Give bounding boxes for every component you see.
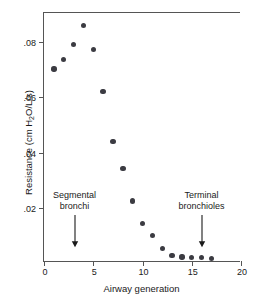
down-arrow-icon [197, 215, 207, 247]
data-point [169, 253, 174, 258]
data-point [110, 139, 115, 144]
data-point [51, 66, 56, 71]
down-arrow-icon [70, 215, 80, 247]
data-point [160, 246, 165, 251]
plot-area: .02.04.06.08 05101520 SegmentalbronchiTe… [43, 12, 240, 262]
x-tick-label-3: 15 [188, 267, 198, 277]
data-point [140, 221, 145, 226]
data-point [179, 254, 184, 259]
x-tick-3: 15 [192, 261, 193, 266]
annotation-line2: bronchioles [142, 201, 262, 212]
x-tick-0: 0 [44, 261, 45, 266]
data-point [91, 47, 96, 52]
data-point [209, 256, 214, 261]
annotation-line1: Segmental [53, 190, 96, 200]
y-tick-1: .04 [39, 153, 44, 154]
y-axis-title-subscript: 2 [28, 116, 35, 120]
data-point [189, 255, 194, 260]
y-tick-label-3: .08 [23, 38, 36, 48]
data-point [81, 23, 86, 28]
data-point [71, 42, 76, 47]
y-axis-title-pre: Resistance (cm H [23, 120, 34, 195]
annotation-terminal-bronchioles: Terminalbronchioles [142, 190, 262, 212]
annotation-line1: Terminal [185, 190, 219, 200]
x-tick-2: 10 [143, 261, 144, 266]
y-tick-3: .08 [39, 42, 44, 43]
data-point [61, 57, 66, 62]
y-axis-title: Resistance (cm H2O/L/s) [23, 63, 34, 223]
x-tick-label-0: 0 [42, 267, 47, 277]
x-tick-4: 20 [241, 261, 242, 266]
airway-resistance-scatter-figure: .02.04.06.08 05101520 SegmentalbronchiTe… [0, 0, 279, 303]
data-point [100, 89, 105, 94]
data-point [199, 255, 204, 260]
x-tick-label-1: 5 [92, 267, 97, 277]
x-tick-label-4: 20 [237, 267, 247, 277]
x-tick-1: 5 [93, 261, 94, 266]
x-tick-label-2: 10 [138, 267, 148, 277]
y-axis-title-post: O/L/s) [23, 90, 34, 116]
data-point [120, 166, 125, 171]
x-axis-title: Airway generation [43, 283, 240, 294]
data-point [150, 233, 155, 238]
y-tick-2: .06 [39, 97, 44, 98]
